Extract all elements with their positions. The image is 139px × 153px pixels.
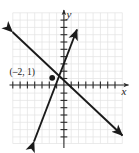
y-axis-label: y	[66, 8, 72, 20]
grid-lines	[13, 13, 123, 144]
x-axis-label: x	[121, 85, 127, 97]
graph-canvas: y x (–2, 1)	[0, 0, 139, 153]
intersection-point-marker	[49, 75, 55, 81]
intersection-point-label: (–2, 1)	[10, 67, 35, 78]
coordinate-plane-figure: y x (–2, 1)	[0, 0, 139, 153]
shallow-line	[13, 32, 123, 136]
